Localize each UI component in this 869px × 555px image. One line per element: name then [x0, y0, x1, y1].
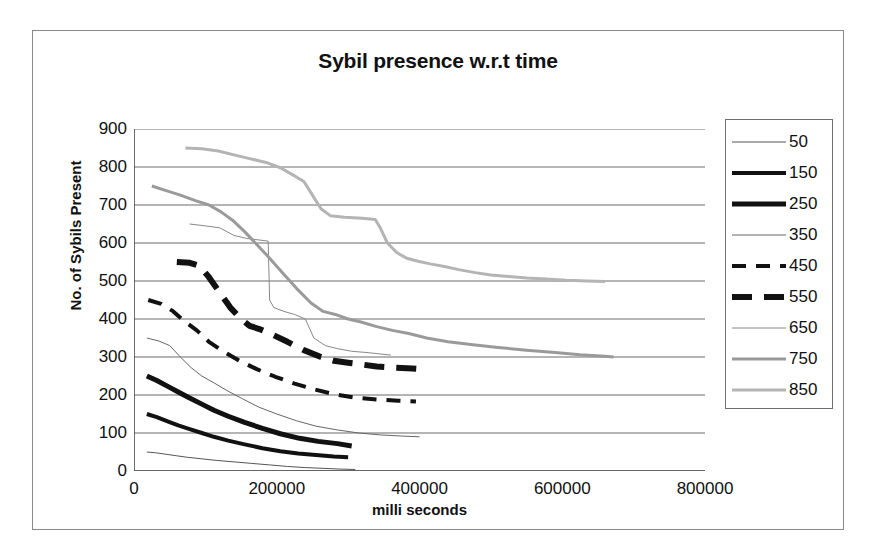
- series-line-550: [177, 262, 423, 369]
- series-line-250: [147, 376, 352, 446]
- y-tick-label: 600: [99, 233, 127, 253]
- y-tick-label: 0: [118, 461, 127, 481]
- legend-label: 850: [789, 380, 817, 400]
- series-line-650: [190, 224, 391, 355]
- series-line-350: [147, 338, 420, 437]
- legend-swatch-50: [731, 135, 787, 149]
- legend-item-650[interactable]: 650: [726, 312, 832, 344]
- legend-swatch-150: [731, 166, 787, 180]
- legend-item-850[interactable]: 850: [726, 374, 832, 406]
- x-tick-label: 800000: [677, 479, 734, 499]
- legend-item-750[interactable]: 750: [726, 343, 832, 375]
- legend-item-550[interactable]: 550: [726, 281, 832, 313]
- y-tick-label: 900: [99, 119, 127, 139]
- legend-label: 50: [789, 132, 808, 152]
- chart-legend: 50150250350450550650750850: [725, 119, 833, 409]
- legend-label: 550: [789, 287, 817, 307]
- legend-item-450[interactable]: 450: [726, 250, 832, 282]
- legend-label: 350: [789, 225, 817, 245]
- legend-swatch-250: [731, 197, 787, 211]
- plot-area: [134, 129, 705, 471]
- legend-item-250[interactable]: 250: [726, 188, 832, 220]
- y-tick-label: 300: [99, 347, 127, 367]
- legend-item-350[interactable]: 350: [726, 219, 832, 251]
- series-line-450: [148, 300, 416, 401]
- legend-label: 250: [789, 194, 817, 214]
- y-axis-tick-labels: 0100200300400500600700800900: [61, 129, 127, 471]
- x-tick-label: 600000: [534, 479, 591, 499]
- y-tick-label: 400: [99, 309, 127, 329]
- x-axis-tick-labels: 0200000400000600000800000: [134, 477, 705, 503]
- legend-label: 750: [789, 349, 817, 369]
- y-tick-label: 100: [99, 423, 127, 443]
- series-line-150: [147, 414, 348, 457]
- legend-label: 650: [789, 318, 817, 338]
- legend-swatch-450: [731, 259, 787, 273]
- x-tick-label: 200000: [248, 479, 305, 499]
- series-line-750: [152, 186, 614, 357]
- legend-swatch-750: [731, 352, 787, 366]
- x-axis-title: milli seconds: [134, 501, 705, 518]
- legend-label: 450: [789, 256, 817, 276]
- y-tick-label: 500: [99, 271, 127, 291]
- chart-plot-svg: [134, 129, 705, 471]
- legend-item-50[interactable]: 50: [726, 126, 832, 158]
- legend-swatch-550: [731, 290, 787, 304]
- y-tick-label: 200: [99, 385, 127, 405]
- x-tick-label: 0: [129, 479, 138, 499]
- chart-title: Sybil presence w.r.t time: [33, 49, 843, 73]
- legend-swatch-850: [731, 383, 787, 397]
- x-tick-label: 400000: [391, 479, 448, 499]
- legend-swatch-350: [731, 228, 787, 242]
- series-line-850: [185, 148, 605, 281]
- chart-frame: Sybil presence w.r.t time No. of Sybils …: [32, 30, 844, 530]
- legend-item-150[interactable]: 150: [726, 157, 832, 189]
- y-tick-label: 800: [99, 157, 127, 177]
- y-tick-label: 700: [99, 195, 127, 215]
- legend-label: 150: [789, 163, 817, 183]
- legend-swatch-650: [731, 321, 787, 335]
